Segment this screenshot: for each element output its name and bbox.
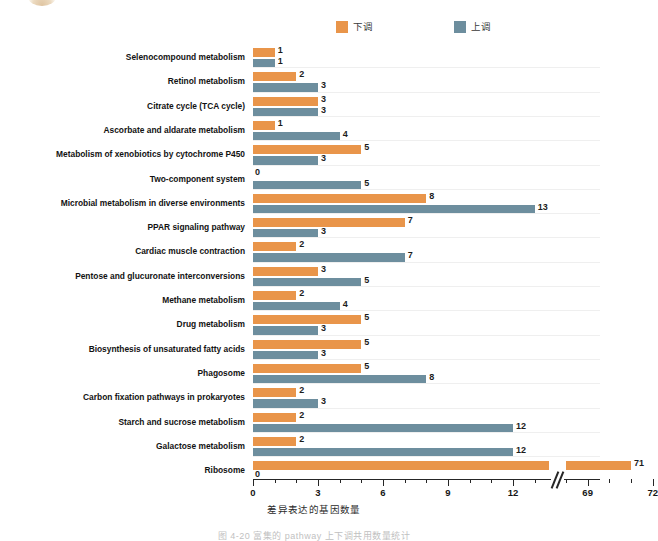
chart-row[interactable]: Selenocompound metabolism11 xyxy=(253,46,600,68)
x-axis-minor-tick xyxy=(491,479,492,483)
bar-value-label: 7 xyxy=(408,251,413,260)
bar-value-label: 0 xyxy=(255,470,260,479)
y-axis-category-label-text: Ribosome xyxy=(205,465,250,475)
row-separator xyxy=(253,286,600,287)
chart-row[interactable]: Microbial metabolism in diverse environm… xyxy=(253,192,600,214)
chart-row[interactable]: Phagosome58 xyxy=(253,362,600,384)
legend-swatch-down-regulated xyxy=(336,21,348,33)
bar-value-label: 3 xyxy=(321,397,326,406)
chart-row[interactable]: Ascorbate and aldarate metabolism14 xyxy=(253,119,600,141)
y-axis-category-label-text: Ascorbate and aldarate metabolism xyxy=(104,125,250,135)
bar-value-label: 4 xyxy=(343,300,348,309)
bar-down-regulated[interactable] xyxy=(253,48,275,57)
chart-row[interactable]: Metabolism of xenobiotics by cytochrome … xyxy=(253,143,600,165)
chart-row[interactable]: Galactose metabolism212 xyxy=(253,435,600,457)
y-axis-category-label: Drug metabolism xyxy=(0,313,249,335)
y-axis-category-label-text: Methane metabolism xyxy=(162,295,249,305)
row-separator xyxy=(253,408,600,409)
x-axis-minor-tick xyxy=(631,479,632,483)
row-separator xyxy=(253,67,600,68)
y-axis-category-label-text: Retinol metabolism xyxy=(168,76,249,86)
x-axis-minor-tick xyxy=(361,479,362,483)
bar-break-gap xyxy=(549,461,566,470)
bar-down-regulated[interactable] xyxy=(253,291,296,300)
bar-value-label: 12 xyxy=(516,446,526,455)
y-axis-category-label-text: Carbon fixation pathways in prokaryotes xyxy=(83,392,249,402)
bar-down-regulated[interactable] xyxy=(253,388,296,397)
y-axis-category-label-text: Phagosome xyxy=(198,368,249,378)
chart-row[interactable]: Two-component system05 xyxy=(253,168,600,190)
plot-area: Selenocompound metabolism11Retinol metab… xyxy=(253,41,600,479)
x-axis-major-tick xyxy=(448,479,449,486)
bar-down-regulated[interactable] xyxy=(253,340,361,349)
bar-value-label: 2 xyxy=(299,411,304,420)
bar-value-label: 2 xyxy=(299,435,304,444)
x-axis-title: 差异表达的基因数量 xyxy=(0,502,628,516)
chart-row[interactable]: Biosynthesis of unsaturated fatty acids5… xyxy=(253,338,600,360)
x-axis-tick-label: 0 xyxy=(250,487,255,498)
chart-row[interactable]: Ribosome710 xyxy=(253,459,600,481)
bar-down-regulated[interactable] xyxy=(253,364,361,373)
y-axis-category-label: Pentose and glucuronate interconversions xyxy=(0,265,249,287)
y-axis-category-label: Carbon fixation pathways in prokaryotes xyxy=(0,386,249,408)
chart-row[interactable]: Citrate cycle (TCA cycle)33 xyxy=(253,95,600,117)
row-separator xyxy=(253,456,600,457)
x-axis-minor-tick xyxy=(296,479,297,483)
chart-row[interactable]: Pentose and glucuronate interconversions… xyxy=(253,265,600,287)
bar-down-regulated[interactable] xyxy=(253,461,631,470)
y-axis-category-label: Ribosome xyxy=(0,459,249,481)
y-axis-category-label: Starch and sucrose metabolism xyxy=(0,411,249,433)
bar-down-regulated[interactable] xyxy=(253,267,318,276)
row-separator xyxy=(253,140,600,141)
y-axis-category-label: Cardiac muscle contraction xyxy=(0,240,249,262)
bar-down-regulated[interactable] xyxy=(253,242,296,251)
chart-row[interactable]: Drug metabolism53 xyxy=(253,313,600,335)
chart-row[interactable]: Starch and sucrose metabolism212 xyxy=(253,411,600,433)
y-axis-category-label-text: Biosynthesis of unsaturated fatty acids xyxy=(89,344,249,354)
bar-down-regulated[interactable] xyxy=(253,145,361,154)
y-axis-category-label: Citrate cycle (TCA cycle) xyxy=(0,95,249,117)
chart-row[interactable]: Methane metabolism24 xyxy=(253,289,600,311)
bar-value-label: 3 xyxy=(321,154,326,163)
bar-value-label: 4 xyxy=(343,130,348,139)
x-axis-minor-tick xyxy=(535,479,536,483)
bar-value-label: 8 xyxy=(429,373,434,382)
bar-value-label: 3 xyxy=(321,227,326,236)
bar-down-regulated[interactable] xyxy=(253,413,296,422)
bar-down-regulated[interactable] xyxy=(253,194,426,203)
x-axis-major-tick xyxy=(318,479,319,486)
legend-item-up-regulated[interactable]: 上调 xyxy=(454,21,491,33)
bar-value-label: 1 xyxy=(278,119,283,128)
row-separator xyxy=(253,432,600,433)
row-separator xyxy=(253,310,600,311)
bar-value-label: 3 xyxy=(321,81,326,90)
y-axis-category-label: PPAR signaling pathway xyxy=(0,216,249,238)
chart-row[interactable]: Cardiac muscle contraction27 xyxy=(253,240,600,262)
bar-value-label: 12 xyxy=(516,422,526,431)
legend-item-down-regulated[interactable]: 下调 xyxy=(336,21,373,33)
chart-row[interactable]: Carbon fixation pathways in prokaryotes2… xyxy=(253,386,600,408)
scan-artifact xyxy=(28,0,56,6)
bar-down-regulated[interactable] xyxy=(253,97,318,106)
bar-value-label: 5 xyxy=(364,313,369,322)
bar-value-label: 5 xyxy=(364,179,369,188)
bar-value-label: 2 xyxy=(299,386,304,395)
row-separator xyxy=(253,116,600,117)
bar-down-regulated[interactable] xyxy=(253,121,275,130)
bar-down-regulated[interactable] xyxy=(253,218,405,227)
bar-down-regulated[interactable] xyxy=(253,315,361,324)
chart-row[interactable]: PPAR signaling pathway73 xyxy=(253,216,600,238)
row-separator xyxy=(253,359,600,360)
bar-down-regulated[interactable] xyxy=(253,437,296,446)
row-separator xyxy=(253,262,600,263)
x-axis-tick-label: 12 xyxy=(508,487,519,498)
y-axis-category-label: Galactose metabolism xyxy=(0,435,249,457)
y-axis-category-label-text: Microbial metabolism in diverse environm… xyxy=(61,198,249,208)
x-axis-minor-tick xyxy=(405,479,406,483)
chart-row[interactable]: Retinol metabolism23 xyxy=(253,70,600,92)
y-axis-category-label: Biosynthesis of unsaturated fatty acids xyxy=(0,338,249,360)
row-separator xyxy=(253,335,600,336)
legend-label-down-regulated: 下调 xyxy=(353,21,373,33)
bar-down-regulated[interactable] xyxy=(253,72,296,81)
